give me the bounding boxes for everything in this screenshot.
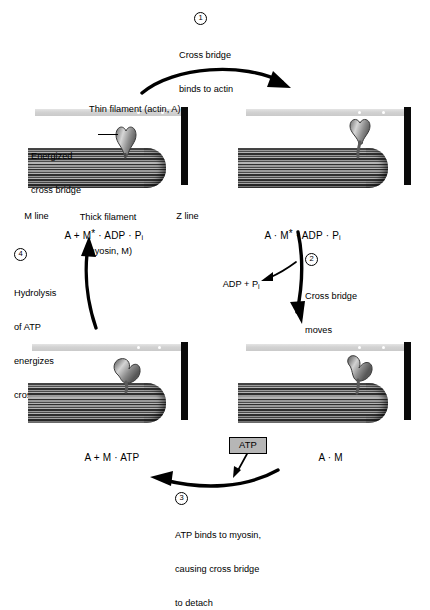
step-2-number: 2 [305,253,318,266]
state-formula-bottom-right: A · M [307,440,343,476]
cross-bridge-head-bottom-left [108,353,148,393]
z-line-top-right [404,107,411,185]
panel-bottom-right [238,340,428,440]
thin-filament-top-right [246,109,408,116]
step-3-arrow [148,466,282,498]
thin-filament-bottom-left [32,344,185,351]
thin-filament-label: Thin filament (actin, A) [79,93,180,127]
panel-bottom-left [10,340,200,440]
actin-site-dot [158,346,161,349]
step-1-number: 1 [194,12,207,25]
z-line-label: Z line [166,200,199,234]
state-formula-bottom-left: A + M · ATP [73,440,139,476]
adp-pi-release-label: ADP + Pi [213,268,260,304]
actin-site-dot [358,346,361,349]
z-line-top-left [181,107,188,185]
step-4-arrow [78,236,118,330]
actin-site-dot [358,111,361,114]
z-line-bottom-left [181,342,188,420]
callout-leader-line [98,134,118,135]
step-3-number: 3 [175,492,188,505]
actin-site-dot [137,346,140,349]
cross-bridge-head-bottom-right [341,352,379,394]
adp-pi-release-arrow [258,258,302,288]
cross-bridge-head-top-right [345,116,379,158]
z-line-bottom-right [404,342,411,420]
actin-site-dot [382,346,385,349]
cross-bridge-head-top-left [110,122,144,158]
m-line-label: M line [14,200,49,234]
actin-site-dot [382,111,385,114]
thin-filament-bottom-right [246,344,408,351]
panel-top-right [238,105,428,205]
step-3-label: ATP binds to myosin, causing cross bridg… [175,507,261,610]
step-4-number: 4 [14,248,27,261]
